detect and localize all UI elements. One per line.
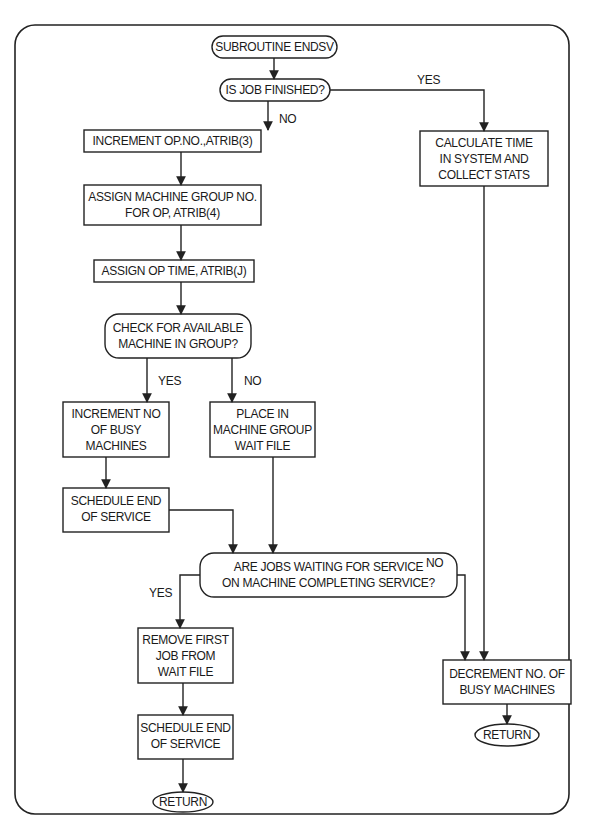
- node-decrement-busy-line1: DECREMENT NO. OF: [443, 666, 571, 682]
- node-place-wait-line2: MACHINE GROUP: [210, 422, 315, 438]
- node-q-finished: IS JOB FINISHED?: [220, 82, 330, 98]
- node-place-wait: PLACE IN MACHINE GROUP WAIT FILE: [210, 406, 315, 454]
- node-schedule-end-1-line1: SCHEDULE END: [63, 493, 169, 509]
- edge-waiting-yes: [180, 575, 200, 628]
- node-assign-time: ASSIGN OP TIME, ATRIB(J): [94, 263, 254, 279]
- node-calc-time-line2: IN SYSTEM AND: [420, 151, 548, 167]
- edge-finished-yes: [330, 90, 484, 131]
- node-assign-group-line2: FOR OP, ATRIB(4): [84, 205, 261, 221]
- edge-label-finished-no: NO: [279, 112, 296, 126]
- node-q-available-line1: CHECK FOR AVAILABLE: [105, 320, 251, 336]
- node-assign-group-line1: ASSIGN MACHINE GROUP NO.: [84, 189, 261, 205]
- node-start: SUBROUTINE ENDSV: [212, 39, 337, 55]
- edge-label-available-no: NO: [244, 374, 261, 388]
- node-increment-busy-line2: OF BUSY: [63, 422, 169, 438]
- node-remove-first: REMOVE FIRST JOB FROM WAIT FILE: [138, 632, 233, 680]
- node-start-text: SUBROUTINE ENDSV: [215, 40, 334, 54]
- node-calc-time-line3: COLLECT STATS: [420, 167, 548, 183]
- node-increment-busy: INCREMENT NO OF BUSY MACHINES: [63, 406, 169, 454]
- node-increment-busy-line1: INCREMENT NO: [63, 406, 169, 422]
- node-return-1: RETURN: [153, 794, 213, 810]
- node-q-waiting-line2: ON MACHINE COMPLETING SERVICE?: [200, 575, 457, 591]
- node-schedule-end-1-line2: OF SERVICE: [63, 509, 169, 525]
- node-increment-op-text: INCREMENT OP.NO.,ATRIB(3): [93, 134, 253, 148]
- node-remove-first-line3: WAIT FILE: [138, 664, 233, 680]
- node-return-2: RETURN: [475, 727, 539, 743]
- edge-label-finished-yes: YES: [417, 73, 440, 87]
- node-assign-group: ASSIGN MACHINE GROUP NO. FOR OP, ATRIB(4…: [84, 189, 261, 221]
- node-place-wait-line3: WAIT FILE: [210, 438, 315, 454]
- node-assign-time-text: ASSIGN OP TIME, ATRIB(J): [102, 264, 247, 278]
- node-decrement-busy-line2: BUSY MACHINES: [443, 682, 571, 698]
- node-increment-op: INCREMENT OP.NO.,ATRIB(3): [84, 133, 261, 149]
- node-calc-time-line1: CALCULATE TIME: [420, 135, 548, 151]
- node-q-waiting-line1: ARE JOBS WAITING FOR SERVICE: [200, 559, 457, 575]
- node-increment-busy-line3: MACHINES: [63, 438, 169, 454]
- node-place-wait-line1: PLACE IN: [210, 406, 315, 422]
- edge-label-available-yes: YES: [158, 374, 181, 388]
- node-remove-first-line1: REMOVE FIRST: [138, 632, 233, 648]
- edge-waiting-no: [457, 575, 465, 660]
- edge-label-waiting-yes: YES: [149, 586, 172, 600]
- node-return-1-text: RETURN: [159, 795, 207, 809]
- node-calc-time: CALCULATE TIME IN SYSTEM AND COLLECT STA…: [420, 135, 548, 183]
- node-remove-first-line2: JOB FROM: [138, 648, 233, 664]
- node-return-2-text: RETURN: [483, 728, 531, 742]
- node-schedule-end-2-line2: OF SERVICE: [138, 736, 233, 752]
- node-schedule-end-2-line1: SCHEDULE END: [138, 720, 233, 736]
- node-schedule-end-1: SCHEDULE END OF SERVICE: [63, 493, 169, 525]
- node-q-available-line2: MACHINE IN GROUP?: [105, 336, 251, 352]
- node-q-available: CHECK FOR AVAILABLE MACHINE IN GROUP?: [105, 320, 251, 352]
- edge-schedule-to-waiting: [169, 510, 233, 553]
- node-schedule-end-2: SCHEDULE END OF SERVICE: [138, 720, 233, 752]
- edge-label-waiting-no: NO: [426, 556, 443, 570]
- node-q-waiting: ARE JOBS WAITING FOR SERVICE ON MACHINE …: [200, 559, 457, 591]
- node-q-finished-text: IS JOB FINISHED?: [225, 83, 324, 97]
- node-decrement-busy: DECREMENT NO. OF BUSY MACHINES: [443, 666, 571, 698]
